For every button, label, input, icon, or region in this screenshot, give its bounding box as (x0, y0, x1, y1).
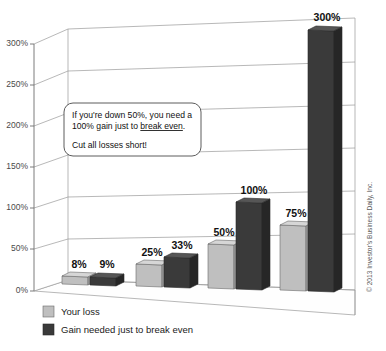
chart-container: 300% 250% 200% 150% 100% 50% 0% 8% 9% (0, 0, 386, 351)
legend-label-your-loss: Your loss (61, 306, 100, 317)
bar-gain-2 (164, 253, 198, 288)
bar-value-label-loss-3: 50% (213, 226, 235, 238)
bar-gain-1-front (90, 277, 116, 286)
bar-gain-4 (308, 26, 342, 292)
bar-gain-4-side (334, 27, 342, 292)
bar-value-label-loss-1: 8% (71, 258, 87, 270)
bar-gain-4-front (308, 30, 334, 292)
legend-swatch-your-loss (43, 306, 54, 317)
callout-line-2: 100% gain just to break even. (72, 121, 185, 131)
callout-box: If you're down 50%, you need a 100% gain… (64, 103, 201, 156)
y-tick-label-200: 200% (6, 120, 28, 130)
left-wall (34, 29, 68, 291)
y-axis: 300% 250% 200% 150% 100% 50% 0% (6, 38, 34, 295)
callout-line-2-after: . (183, 121, 185, 131)
y-tick-label-0: 0% (16, 285, 29, 295)
y-tick-label-50: 50% (11, 243, 28, 253)
bar-loss-4-front (280, 225, 306, 291)
copyright-notice: © 2013 Investor's Business Daily, Inc. (366, 182, 374, 292)
bar-loss-1-front (62, 276, 88, 285)
callout-line-1: If you're down 50%, you need a (72, 110, 192, 120)
bar-value-label-loss-4: 75% (285, 207, 307, 219)
bar-chart-3d: 300% 250% 200% 150% 100% 50% 0% 8% 9% (0, 0, 386, 351)
chart-legend: Your loss Gain needed just to break even (43, 306, 193, 335)
y-tick-label-250: 250% (6, 79, 28, 89)
bar-value-label-gain-1: 9% (99, 258, 115, 270)
legend-item-your-loss[interactable]: Your loss (43, 306, 100, 317)
bar-gain-3-front (236, 202, 262, 290)
callout-line-2-before: 100% gain just to (72, 121, 140, 131)
legend-swatch-gain-needed (43, 324, 54, 335)
y-tick-label-100: 100% (6, 202, 28, 212)
bar-value-label-gain-2: 33% (171, 239, 193, 251)
callout-line-3: Cut all losses short! (72, 140, 147, 150)
bar-value-label-gain-4: 300% (314, 11, 342, 23)
bar-loss-3-front (208, 244, 234, 289)
bar-gain-3-side (262, 199, 270, 290)
bar-gain-2-front (164, 257, 190, 288)
bar-value-label-gain-3: 100% (241, 184, 269, 196)
legend-label-gain-needed: Gain needed just to break even (61, 324, 193, 335)
y-tick-label-300: 300% (6, 38, 28, 48)
legend-item-gain-needed[interactable]: Gain needed just to break even (43, 324, 193, 335)
bar-gain-2-side (190, 254, 198, 288)
bar-value-label-loss-2: 25% (141, 246, 163, 258)
bar-gain-3 (236, 198, 270, 290)
y-tick-label-150: 150% (6, 161, 28, 171)
bar-loss-2-front (136, 264, 162, 287)
callout-line-2-underlined: break even (140, 121, 183, 131)
bar-gain-1 (90, 273, 124, 286)
